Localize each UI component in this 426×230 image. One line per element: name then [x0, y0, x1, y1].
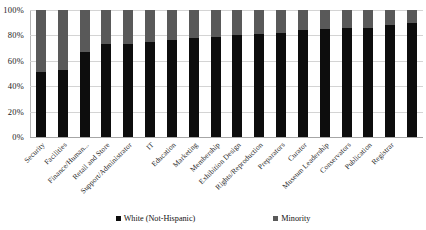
stacked-bar[interactable]	[232, 10, 242, 137]
bar-segment-white-not-hispanic	[320, 29, 330, 137]
stacked-bar[interactable]	[385, 10, 395, 137]
stacked-bar-chart: 0%20%40%60%80%100% SecurityFacilitiesFin…	[0, 0, 426, 230]
bar-segment-minority	[342, 10, 352, 28]
stacked-bar[interactable]	[276, 10, 286, 137]
stacked-bar[interactable]	[145, 10, 155, 137]
y-axis-tick-label: 0%	[12, 132, 24, 142]
bar-slot	[205, 10, 227, 137]
bar-segment-white-not-hispanic	[385, 25, 395, 137]
legend-label: Minority	[281, 214, 310, 223]
bar-segment-white-not-hispanic	[363, 28, 373, 137]
stacked-bar[interactable]	[101, 10, 111, 137]
stacked-bar[interactable]	[58, 10, 68, 137]
bar-segment-white-not-hispanic	[254, 34, 264, 137]
x-axis-label-slot: Security	[30, 139, 52, 201]
bar-slot	[248, 10, 270, 137]
stacked-bar[interactable]	[211, 10, 221, 137]
y-axis-tick-label: 40%	[8, 81, 24, 91]
bar-slot	[270, 10, 292, 137]
stacked-bar[interactable]	[407, 10, 417, 137]
bar-segment-white-not-hispanic	[80, 52, 90, 137]
bar-segment-white-not-hispanic	[36, 72, 46, 137]
bar-slot	[357, 10, 379, 137]
black-square-icon	[116, 216, 121, 221]
bar-segment-minority	[80, 10, 90, 52]
bar-segment-white-not-hispanic	[232, 35, 242, 137]
bar-segment-minority	[298, 10, 308, 30]
x-axis-label-slot: Support/Administrator	[117, 139, 139, 201]
bars-container	[30, 10, 423, 137]
stacked-bar[interactable]	[298, 10, 308, 137]
bar-segment-minority	[320, 10, 330, 29]
stacked-bar[interactable]	[342, 10, 352, 137]
bar-segment-white-not-hispanic	[211, 37, 221, 137]
plot-area	[30, 10, 423, 137]
bar-slot	[292, 10, 314, 137]
stacked-bar[interactable]	[189, 10, 199, 137]
legend-item[interactable]: Minority	[273, 214, 310, 223]
bar-segment-minority	[232, 10, 242, 35]
bar-segment-white-not-hispanic	[298, 30, 308, 137]
stacked-bar[interactable]	[254, 10, 264, 137]
bar-segment-minority	[407, 10, 417, 23]
stacked-bar[interactable]	[80, 10, 90, 137]
bar-segment-white-not-hispanic	[58, 70, 68, 137]
legend-item[interactable]: White (Not-Hispanic)	[116, 214, 196, 223]
bar-segment-minority	[167, 10, 177, 40]
legend-label: White (Not-Hispanic)	[124, 214, 196, 223]
bar-segment-minority	[211, 10, 221, 37]
bar-segment-white-not-hispanic	[167, 40, 177, 137]
bar-segment-white-not-hispanic	[342, 28, 352, 137]
bar-segment-minority	[58, 10, 68, 70]
bar-segment-minority	[145, 10, 155, 42]
bar-slot	[74, 10, 96, 137]
bar-segment-white-not-hispanic	[189, 38, 199, 137]
stacked-bar[interactable]	[320, 10, 330, 137]
bar-segment-white-not-hispanic	[145, 42, 155, 137]
x-axis-label-slot: Education	[161, 139, 183, 201]
bar-slot	[161, 10, 183, 137]
x-axis-label-slot: Preparators	[270, 139, 292, 201]
gray-square-icon	[273, 216, 278, 221]
bar-segment-minority	[363, 10, 373, 28]
bar-segment-white-not-hispanic	[101, 44, 111, 137]
y-axis-tick-label: 100%	[3, 5, 24, 15]
bar-segment-minority	[254, 10, 264, 34]
axis-baseline	[30, 137, 423, 138]
x-axis-labels: SecurityFacilitiesFinance/Human...Retail…	[30, 139, 423, 201]
x-axis-label-slot	[401, 139, 423, 201]
stacked-bar[interactable]	[363, 10, 373, 137]
bar-slot	[95, 10, 117, 137]
bar-segment-minority	[385, 10, 395, 25]
x-axis-label-slot: Conservators	[336, 139, 358, 201]
bar-segment-minority	[276, 10, 286, 33]
bar-segment-white-not-hispanic	[407, 23, 417, 137]
y-axis-labels: 0%20%40%60%80%100%	[0, 0, 28, 147]
bar-segment-white-not-hispanic	[276, 33, 286, 137]
bar-slot	[314, 10, 336, 137]
stacked-bar[interactable]	[36, 10, 46, 137]
bar-slot	[226, 10, 248, 137]
bar-slot	[139, 10, 161, 137]
bar-slot	[401, 10, 423, 137]
y-axis-tick-label: 80%	[8, 30, 24, 40]
bar-segment-minority	[123, 10, 133, 44]
x-axis-label-slot: IT	[139, 139, 161, 201]
x-axis-label-slot: Registrar	[379, 139, 401, 201]
bar-slot	[379, 10, 401, 137]
bar-slot	[117, 10, 139, 137]
bar-segment-white-not-hispanic	[123, 44, 133, 137]
bar-segment-minority	[189, 10, 199, 38]
y-axis-tick-label: 20%	[8, 107, 24, 117]
bar-slot	[336, 10, 358, 137]
bar-slot	[52, 10, 74, 137]
bar-segment-minority	[101, 10, 111, 44]
x-axis-label-slot: Rights/Reproduction	[248, 139, 270, 201]
bar-slot	[30, 10, 52, 137]
x-axis-label-slot: Publication	[357, 139, 379, 201]
bar-slot	[183, 10, 205, 137]
bar-segment-minority	[36, 10, 46, 72]
stacked-bar[interactable]	[123, 10, 133, 137]
chart-legend: White (Not-Hispanic)Minority	[0, 210, 426, 226]
stacked-bar[interactable]	[167, 10, 177, 137]
